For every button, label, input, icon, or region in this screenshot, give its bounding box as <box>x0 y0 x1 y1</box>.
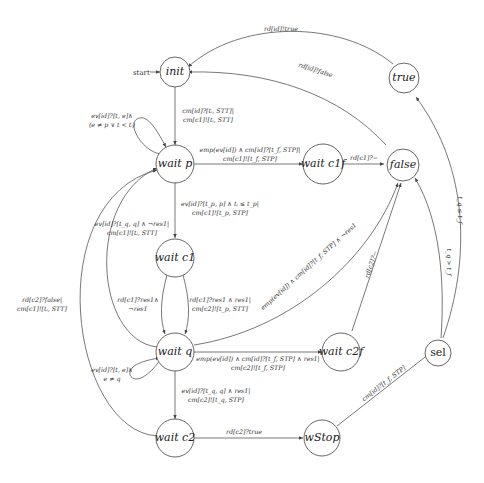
svg-text:init: init <box>166 65 185 78</box>
svg-text:rd[c2]?−: rd[c2]?− <box>363 250 378 279</box>
svg-text:wait c2: wait c2 <box>155 431 196 444</box>
svg-text:cm[c2]![t_p, STT]: cm[c2]![t_p, STT] <box>192 305 248 313</box>
svg-text:t_q ≤ t_f: t_q ≤ t_f <box>456 197 464 226</box>
svg-text:ev[id]?[t_q, q] ∧ res1|: ev[id]?[t_q, q] ∧ res1| <box>182 387 251 395</box>
svg-text:ev[id]?[t, e]∧: ev[id]?[t, e]∧ <box>91 112 132 119</box>
svg-text:t_q > t_f: t_q > t_f <box>445 249 453 278</box>
start-label: start <box>133 69 150 77</box>
svg-text:cm[c1]![tᵢ, STT]: cm[c1]![tᵢ, STT] <box>17 305 68 312</box>
svg-text:ev[id]?[t_q, q] ∧ ¬res1|: ev[id]?[t_q, q] ∧ ¬res1| <box>95 220 169 228</box>
svg-text:emp(ev[id]) ∧ cm[id]?[t_f, STP: emp(ev[id]) ∧ cm[id]?[t_f, STP]| <box>200 146 301 154</box>
edge-waitc2-waitp <box>80 170 157 436</box>
svg-text:rd[c2]?true: rd[c2]?true <box>226 428 262 435</box>
edge-true-init <box>188 31 393 67</box>
svg-text:rd[c1]?res1∧: rd[c1]?res1∧ <box>117 296 158 303</box>
svg-text:rd[c1]?−: rd[c1]?− <box>350 154 378 161</box>
edge-waitc1-waitq-right <box>183 275 189 334</box>
svg-text:ev[id]?[t, e]∧: ev[id]?[t, e]∧ <box>91 366 132 373</box>
node-sel: sel <box>425 340 451 366</box>
node-init: init <box>160 57 190 87</box>
svg-text:wStop: wStop <box>304 431 339 444</box>
svg-text:wait p: wait p <box>158 157 192 170</box>
svg-text:wait q: wait q <box>158 345 192 358</box>
svg-text:ev[id]?[t_p, p] ∧ tᵢ ≤ t_p|: ev[id]?[t_p, p] ∧ tᵢ ≤ t_p| <box>181 200 259 208</box>
node-false: false <box>387 149 419 181</box>
edge-waitq-self <box>130 358 160 379</box>
svg-text:rd[id]!true: rd[id]!true <box>264 25 298 32</box>
svg-text:emp(ev[id]) ∧ cm[id]?[t_f, STP: emp(ev[id]) ∧ cm[id]?[t_f, STP] ∧ ¬res1 <box>259 221 358 312</box>
svg-text:rd[c1]?res1 ∧ res1|: rd[c1]?res1 ∧ res1| <box>189 296 251 304</box>
svg-text:rd[c2]?false|: rd[c2]?false| <box>22 296 62 304</box>
svg-text:(e ≠ p ∨ t < tᵢ): (e ≠ p ∨ t < tᵢ) <box>89 121 136 129</box>
svg-text:e ≠ q: e ≠ q <box>103 375 120 383</box>
node-wait-q: wait q <box>156 333 194 371</box>
svg-text:wait c1: wait c1 <box>155 251 196 264</box>
svg-text:cm[c1]![t_p, STP]: cm[c1]![t_p, STP] <box>192 209 248 217</box>
start-arrow: start <box>133 69 160 77</box>
node-true: true <box>389 63 419 93</box>
svg-text:sel: sel <box>430 346 446 359</box>
svg-text:rd[id]!false: rd[id]!false <box>297 61 334 80</box>
svg-text:true: true <box>392 71 416 84</box>
svg-text:cm[id]?[t_f, STP]: cm[id]?[t_f, STP] <box>360 364 407 403</box>
edge-sel-false <box>415 178 442 338</box>
node-wait-c1f: wait c1f <box>301 144 348 184</box>
node-wstop: wStop <box>304 420 340 456</box>
node-wait-p: wait p <box>156 145 194 183</box>
svg-text:cm[c2]![t_q, STP]: cm[c2]![t_q, STP] <box>188 396 244 404</box>
svg-text:false: false <box>389 158 417 171</box>
svg-text:cm[id]?[tᵢ, STT]|: cm[id]?[tᵢ, STT]| <box>182 107 234 115</box>
svg-text:cm[c1]![tᵢ, STT]: cm[c1]![tᵢ, STT] <box>107 229 158 236</box>
state-diagram: start <box>0 0 484 483</box>
svg-text:cm[c1]![t_f, STP]: cm[c1]![t_f, STP] <box>223 155 277 163</box>
node-wait-c1: wait c1 <box>155 239 196 277</box>
edge-waitc1-waitq-left <box>161 275 167 334</box>
node-wait-c2f: wait c2f <box>319 333 366 371</box>
edge-sel-true <box>416 97 461 338</box>
svg-text:wait c1f: wait c1f <box>301 157 348 170</box>
svg-text:wait c2f: wait c2f <box>319 345 366 358</box>
svg-text:¬res1: ¬res1 <box>128 305 147 312</box>
svg-text:emp(ev[id]) ∧ cm[id]?[t_f, STP: emp(ev[id]) ∧ cm[id]?[t_f, STP] ∧ res1| <box>196 355 320 363</box>
edge-waitp-self <box>134 118 166 154</box>
node-wait-c2: wait c2 <box>155 419 196 457</box>
svg-text:cm[c2]![t_f, STP]: cm[c2]![t_f, STP] <box>231 364 285 372</box>
svg-text:cm[c1]![tᵢ, STT]: cm[c1]![tᵢ, STT] <box>183 116 234 123</box>
